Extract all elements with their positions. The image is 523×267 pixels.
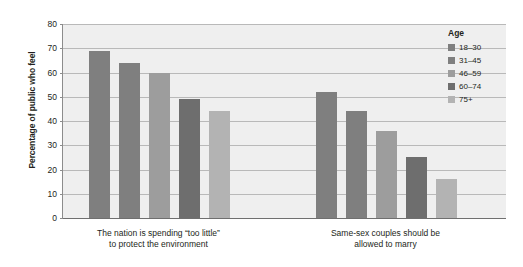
bar [346,111,367,218]
y-axis-title: Percentage of public who feel [27,10,37,210]
gridline [63,24,506,25]
legend-label: 46–59 [459,69,481,78]
bar [316,92,337,218]
y-tick-label: 0 [29,214,57,223]
x-axis-label: The nation is spending “too little”to pr… [54,228,264,250]
bar [149,73,170,219]
bar [179,99,200,218]
bar [89,51,110,218]
y-tick-label: 70 [29,44,57,53]
legend-item: 75+ [448,93,504,106]
y-tick-label: 20 [29,166,57,175]
legend-label: 75+ [459,95,473,104]
legend-swatch [448,83,455,90]
legend-title: Age [448,28,504,38]
x-axis-label-line: allowed to marry [281,239,491,250]
y-tick-mark [60,218,63,219]
x-axis-label-line: to protect the environment [54,239,264,250]
y-tick-mark [60,24,63,25]
gridline [63,48,506,49]
y-tick-label: 80 [29,20,57,29]
legend-swatch [448,44,455,51]
legend-label: 60–74 [459,82,481,91]
legend-label: 18–30 [459,43,481,52]
plot-area: 01020304050607080 Age 18–3031–4546–5960–… [62,24,506,219]
legend-label: 31–45 [459,56,481,65]
bar [436,179,457,218]
y-tick-label: 30 [29,141,57,150]
y-tick-label: 50 [29,93,57,102]
y-tick-mark [60,121,63,122]
legend-item: 60–74 [448,80,504,93]
bar [209,111,230,218]
y-tick-label: 40 [29,117,57,126]
legend-item: 18–30 [448,41,504,54]
bar [406,157,427,218]
y-tick-mark [60,194,63,195]
y-tick-label: 60 [29,69,57,78]
x-axis-label-line: Same-sex couples should be [281,228,491,239]
legend-item: 46–59 [448,67,504,80]
legend-swatch [448,57,455,64]
y-tick-mark [60,48,63,49]
y-tick-mark [60,145,63,146]
bar-chart: Percentage of public who feel 0102030405… [0,0,523,267]
y-tick-mark [60,73,63,74]
legend: Age 18–3031–4546–5960–7475+ [448,28,504,106]
legend-swatch [448,70,455,77]
bar [119,63,140,218]
x-axis-label: Same-sex couples should beallowed to mar… [281,228,491,250]
legend-item: 31–45 [448,54,504,67]
y-tick-label: 10 [29,190,57,199]
legend-swatch [448,96,455,103]
y-tick-mark [60,97,63,98]
bar [376,131,397,218]
legend-items: 18–3031–4546–5960–7475+ [448,41,504,106]
y-tick-mark [60,170,63,171]
x-axis-label-line: The nation is spending “too little” [54,228,264,239]
